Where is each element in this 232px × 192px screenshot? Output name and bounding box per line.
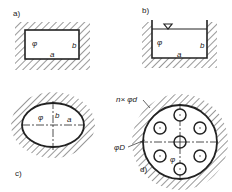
panel-d: n× φd φD φ d) bbox=[114, 92, 232, 192]
panel-c: φ b a c) bbox=[8, 90, 100, 178]
water-level-triangle-icon bbox=[164, 24, 172, 29]
panel-a-a-label: a bbox=[50, 50, 55, 59]
panel-b-a-label: a bbox=[177, 50, 182, 59]
panel-c-label: c) bbox=[15, 169, 22, 178]
panel-b-phi-label: φ bbox=[157, 38, 162, 47]
panel-b-label: b) bbox=[142, 6, 149, 15]
panel-d-phi-label: φ bbox=[170, 155, 175, 164]
panel-d-n-phi-d-label: n× φd bbox=[116, 95, 138, 104]
panel-d-label: d) bbox=[140, 165, 147, 174]
panel-c-b-label: b bbox=[55, 111, 60, 120]
panel-c-a-label: a bbox=[67, 115, 72, 124]
panel-a-b-label: b bbox=[72, 41, 77, 50]
panel-a-phi-label: φ bbox=[32, 39, 37, 48]
panel-a-label: a) bbox=[13, 9, 20, 18]
panel-d-small-diameter-leader bbox=[143, 100, 150, 108]
panel-a: a) φ b a bbox=[13, 9, 90, 70]
panel-b-b-label: b bbox=[200, 41, 205, 50]
cross-section-diagram: a) φ b a b) φ b a φ b a c) bbox=[0, 0, 232, 192]
panel-d-phi-D-label: φD bbox=[114, 143, 125, 152]
panel-b: b) φ b a bbox=[142, 6, 217, 68]
panel-c-phi-label: φ bbox=[38, 113, 43, 122]
